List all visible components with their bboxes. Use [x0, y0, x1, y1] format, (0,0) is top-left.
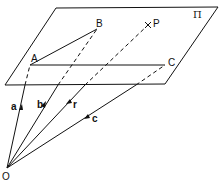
- vector-a-dashed: [25, 65, 30, 85]
- vector-c-label: c: [92, 114, 98, 124]
- vector-c-solid: [7, 85, 136, 168]
- segment-ab: [30, 29, 97, 65]
- vector-b-dashed: [58, 29, 97, 85]
- vector-b-label: b: [37, 100, 43, 110]
- diagram-lines: [0, 0, 219, 183]
- vector-plane-diagram: Π B P A C O a b r c: [0, 0, 219, 183]
- point-p-cross: [145, 22, 151, 28]
- vector-c-dashed: [136, 65, 165, 85]
- vector-a-label: a: [11, 102, 17, 112]
- point-p-label: P: [153, 19, 160, 29]
- point-a-label: A: [31, 54, 38, 64]
- point-c-label: C: [168, 58, 175, 68]
- vector-r-dashed: [85, 25, 148, 85]
- vector-a-solid: [7, 85, 25, 168]
- point-b-label: B: [96, 19, 103, 29]
- point-o-label: O: [2, 172, 10, 182]
- vector-b-solid: [7, 85, 58, 168]
- plane: [5, 7, 218, 85]
- vector-r-label: r: [73, 100, 77, 110]
- vector-r-solid: [7, 85, 85, 168]
- plane-label: Π: [193, 10, 202, 20]
